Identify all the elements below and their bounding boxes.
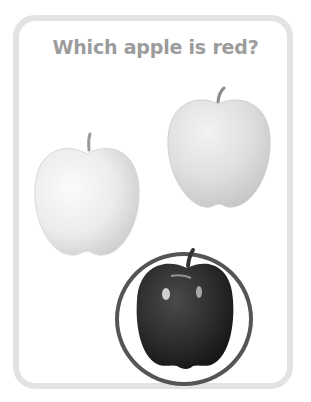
apple-icon [164, 86, 274, 210]
apple-icon [31, 130, 143, 258]
question-title: Which apple is red? [0, 36, 311, 58]
apple-option-2[interactable] [164, 86, 274, 210]
apple-option-1[interactable] [31, 130, 143, 258]
apple-option-3-red[interactable] [131, 246, 239, 374]
red-apple-icon [131, 246, 239, 374]
